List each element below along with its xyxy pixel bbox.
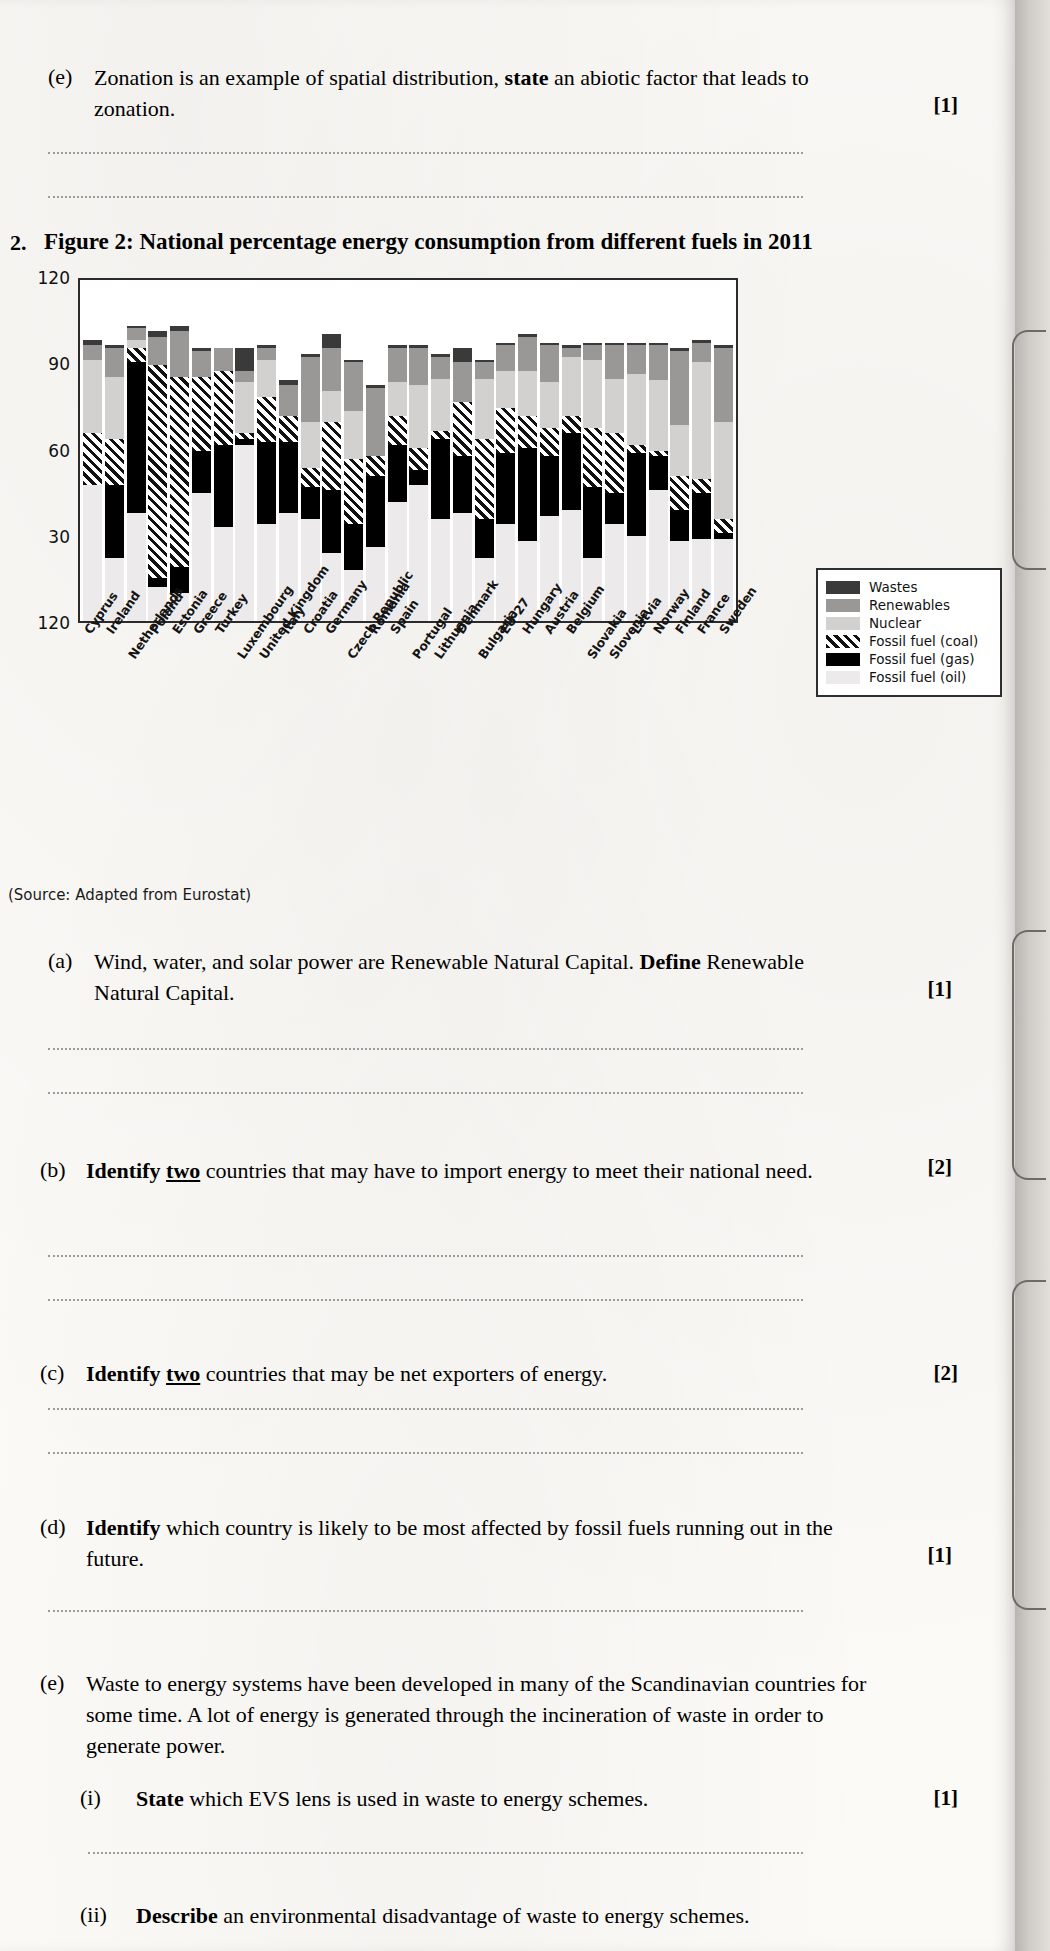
- segment-fossil-fuel-coal-: [518, 416, 537, 447]
- question-2eii: (ii) Describe an environmental disadvant…: [80, 1900, 958, 1931]
- answer-line[interactable]: [48, 196, 803, 198]
- answer-line[interactable]: [48, 1452, 803, 1454]
- segment-renewables: [475, 362, 494, 379]
- segment-fossil-fuel-coal-: [540, 428, 559, 456]
- segment-fossil-fuel-gas-: [279, 442, 298, 513]
- legend-item-wastes: Wastes: [826, 579, 992, 595]
- segment-renewables: [83, 345, 102, 359]
- segment-fossil-fuel-gas-: [649, 456, 668, 490]
- answer-line[interactable]: [48, 1048, 803, 1050]
- legend-label: Fossil fuel (oil): [869, 669, 966, 685]
- segment-nuclear: [496, 371, 515, 408]
- question-2c-label: (c): [40, 1358, 86, 1388]
- segment-fossil-fuel-gas-: [605, 493, 624, 524]
- bar-poland: [148, 280, 167, 621]
- q2d-text-after: which country is likely to be most affec…: [86, 1515, 833, 1571]
- legend-swatch-icon: [826, 581, 860, 594]
- chart-plot-area: Percentage of national consumption 120 9…: [78, 278, 738, 623]
- bar-latvia: [627, 280, 646, 621]
- question-2e-text: Waste to energy systems have been develo…: [86, 1668, 876, 1761]
- segment-fossil-fuel-coal-: [692, 479, 711, 493]
- segment-nuclear: [562, 357, 581, 417]
- figure-2: Percentage of national consumption 120 9…: [10, 278, 1010, 898]
- segment-nuclear: [670, 425, 689, 476]
- question-2c-text: Identify two countries that may be net e…: [86, 1358, 958, 1389]
- legend-item-renewables: Renewables: [826, 597, 992, 613]
- question-2e-label: (e): [40, 1668, 86, 1698]
- answer-line[interactable]: [48, 152, 803, 154]
- q2c-marks: [2]: [934, 1358, 959, 1389]
- bar-netherlands: [127, 280, 146, 621]
- y-tick-90: 90: [48, 354, 70, 374]
- segment-renewables: [627, 345, 646, 373]
- segment-renewables: [453, 362, 472, 402]
- edge-tab-lower: [1012, 1280, 1046, 1610]
- bar-united-kingdom: [257, 280, 276, 621]
- segment-fossil-fuel-gas-: [453, 456, 472, 513]
- q2d-bold-keyword: Identify: [86, 1515, 161, 1540]
- segment-fossil-fuel-gas-: [540, 456, 559, 516]
- q2d-marks: [1]: [928, 1543, 953, 1567]
- segment-fossil-fuel-gas-: [431, 439, 450, 519]
- chart-legend: WastesRenewablesNuclearFossil fuel (coal…: [816, 568, 1002, 697]
- segment-fossil-fuel-gas-: [192, 451, 211, 494]
- legend-swatch-icon: [826, 617, 860, 630]
- bar-eu-27: [496, 280, 515, 621]
- q1e-text-before: Zonation is an example of spatial distri…: [94, 65, 505, 90]
- segment-fossil-fuel-coal-: [127, 348, 146, 362]
- segment-fossil-fuel-gas-: [257, 442, 276, 524]
- segment-renewables: [301, 357, 320, 422]
- bar-france: [692, 280, 711, 621]
- segment-fossil-fuel-coal-: [583, 428, 602, 488]
- segment-fossil-fuel-coal-: [257, 397, 276, 442]
- q2c-bold-keyword: Identify: [86, 1361, 161, 1386]
- question-2ei: (i) State which EVS lens is used in wast…: [80, 1783, 958, 1814]
- segment-fossil-fuel-coal-: [170, 377, 189, 567]
- segment-fossil-fuel-coal-: [83, 433, 102, 484]
- segment-nuclear: [605, 379, 624, 433]
- segment-nuclear: [235, 382, 254, 433]
- bar-belgium: [562, 280, 581, 621]
- segment-renewables: [279, 385, 298, 416]
- segment-renewables: [322, 348, 341, 391]
- answer-line[interactable]: [48, 1610, 803, 1612]
- bar-lithuania: [431, 280, 450, 621]
- bar-cyprus: [83, 280, 102, 621]
- segment-nuclear: [127, 340, 146, 349]
- bar-ireland: [105, 280, 124, 621]
- segment-fossil-fuel-coal-: [562, 416, 581, 433]
- segment-nuclear: [518, 371, 537, 416]
- segment-fossil-fuel-coal-: [388, 416, 407, 444]
- segment-nuclear: [714, 422, 733, 519]
- question-2-heading: 2. Figure 2: National percentage energy …: [10, 228, 990, 258]
- segment-fossil-fuel-gas-: [692, 493, 711, 538]
- question-2d-text: Identify which country is likely to be m…: [86, 1512, 846, 1574]
- answer-line[interactable]: [88, 1852, 803, 1854]
- segment-fossil-fuel-coal-: [714, 519, 733, 533]
- segment-fossil-fuel-gas-: [127, 362, 146, 513]
- q2b-bold-keyword: Identify: [86, 1158, 161, 1183]
- answer-line[interactable]: [48, 1255, 803, 1257]
- question-2d: (d) Identify which country is likely to …: [40, 1512, 958, 1568]
- segment-fossil-fuel-gas-: [388, 445, 407, 502]
- legend-swatch-icon: [826, 671, 860, 684]
- segment-renewables: [148, 337, 167, 365]
- question-2ei-label: (i): [80, 1783, 136, 1813]
- question-1e-label: (e): [48, 62, 94, 92]
- question-2b: (b) Identify two countries that may have…: [40, 1155, 958, 1180]
- segment-renewables: [605, 345, 624, 379]
- legend-label: Renewables: [869, 597, 950, 613]
- bar-norway: [649, 280, 668, 621]
- answer-line[interactable]: [48, 1299, 803, 1301]
- segment-nuclear: [83, 360, 102, 434]
- segment-renewables: [344, 362, 363, 410]
- question-1e-text: Zonation is an example of spatial distri…: [94, 62, 958, 124]
- question-1e: (e) Zonation is an example of spatial di…: [48, 62, 958, 118]
- question-2a-text: Wind, water, and solar power are Renewab…: [94, 946, 854, 1008]
- answer-line[interactable]: [48, 1408, 803, 1410]
- q2c-text-after: countries that may be net exporters of e…: [200, 1361, 607, 1386]
- segment-fossil-fuel-coal-: [453, 402, 472, 456]
- segment-fossil-fuel-gas-: [627, 453, 646, 535]
- segment-renewables: [214, 348, 233, 371]
- answer-line[interactable]: [48, 1092, 803, 1094]
